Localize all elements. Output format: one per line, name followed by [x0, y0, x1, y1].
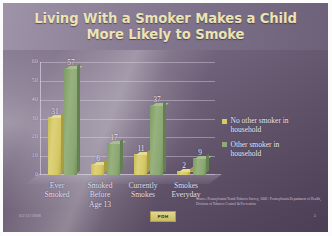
y-tick-60: 60 — [19, 57, 38, 64]
bar-currently-smokes-no-other-smoker — [134, 154, 147, 175]
organization-logo-label: PDH — [158, 214, 169, 219]
bar-smoked-before-13-other-smoker — [107, 143, 120, 175]
presentation-slide: Living With a Smoker Makes a Child More … — [0, 0, 332, 236]
bar-ever-smoked-no-other-smoker — [48, 117, 61, 175]
legend-item-other-smoker: Other smoker in household — [222, 140, 324, 159]
slide-page-number: 5 — [314, 213, 316, 218]
legend-swatch-icon-other-smoker — [222, 142, 227, 147]
bar-currently-smokes-other-smoker — [150, 105, 163, 175]
bar-group-smoked-before-age-13: 6 17 — [91, 62, 133, 175]
legend-swatch-icon-no-other-smoker — [222, 119, 227, 124]
bar-group-currently-smokes: 11 37 — [134, 62, 176, 175]
y-tick-40: 40 — [19, 95, 38, 102]
bar-smoked-before-13-no-other-smoker — [91, 164, 104, 175]
slide-title: Living With a Smoker Makes a Child More … — [16, 11, 316, 42]
bar-value-currently-smokes-other-smoker: 37 — [144, 95, 170, 104]
x-axis-labels: Ever Smoked Smoked Before Age 13 Current… — [40, 181, 220, 221]
slide-border-right — [328, 0, 332, 236]
slide-title-band: Living With a Smoker Makes a Child More … — [3, 3, 328, 50]
bar-groups: 31 57 6 17 11 37 — [40, 62, 215, 175]
bar-smokes-everyday-other-smoker — [193, 158, 206, 175]
slide-date: 03/12/2008 — [19, 213, 41, 218]
y-tick-50: 50 — [19, 76, 38, 83]
slide-title-line-2: More Likely to Smoke — [16, 27, 316, 43]
y-tick-20: 20 — [19, 132, 38, 139]
legend-item-no-other-smoker: No other smoker in household — [222, 116, 324, 135]
slide-border-bottom — [0, 232, 332, 236]
organization-logo: PDH — [150, 211, 176, 222]
bar-group-smokes-everyday: 2 9 — [177, 62, 219, 175]
source-citation: Source: Pennsylvania Youth Tobacco Surve… — [196, 197, 324, 206]
bar-ever-smoked-other-smoker — [64, 68, 77, 175]
bar-smokes-everyday-no-other-smoker — [177, 171, 190, 175]
bar-value-ever-smoked-other-smoker: 57 — [58, 58, 84, 67]
legend-label-other-smoker: Other smoker in household — [231, 140, 280, 159]
bar-group-ever-smoked: 31 57 — [48, 62, 90, 175]
slide-title-line-1: Living With a Smoker Makes a Child — [34, 11, 297, 26]
y-axis-labels: 60 50 40 30 20 10 0 — [19, 57, 38, 180]
chart-legend: No other smoker in household Other smoke… — [222, 116, 324, 164]
y-tick-30: 30 — [19, 114, 38, 121]
legend-label-no-other-smoker: No other smoker in household — [231, 116, 289, 135]
y-tick-10: 10 — [19, 151, 38, 158]
bar-value-smoked-before-13-other-smoker: 17 — [101, 133, 127, 142]
bar-value-smokes-everyday-other-smoker: 9 — [187, 148, 213, 157]
